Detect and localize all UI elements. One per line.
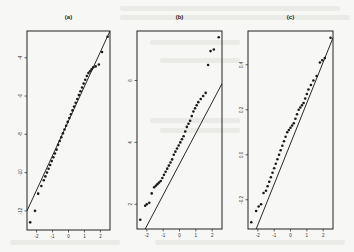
data-point	[49, 164, 52, 167]
data-point	[302, 102, 305, 105]
y-tick-label: 4	[128, 141, 133, 144]
y-tick-label: -8	[18, 132, 23, 136]
data-point	[312, 79, 315, 82]
y-tick-label: -6	[18, 94, 23, 98]
data-point	[86, 75, 89, 78]
data-point	[273, 167, 276, 170]
y-tick-label: -12	[18, 207, 23, 214]
x-tick-label: 2	[99, 234, 102, 239]
data-point	[319, 61, 322, 64]
data-point	[179, 141, 182, 144]
panel-title: (a)	[65, 14, 72, 20]
data-point	[262, 192, 265, 195]
data-point	[292, 122, 295, 125]
panel-title: (c)	[287, 14, 294, 20]
data-point	[250, 221, 253, 224]
data-point	[324, 57, 327, 60]
x-tick-label: -2	[145, 233, 149, 238]
data-point	[62, 132, 65, 135]
data-point	[192, 110, 195, 113]
data-point	[161, 177, 164, 180]
data-point	[268, 180, 271, 183]
plot-frame	[27, 31, 110, 230]
data-point	[44, 175, 47, 178]
plot-frame	[248, 31, 333, 229]
data-point	[255, 210, 258, 213]
data-point	[70, 113, 73, 116]
data-point	[299, 106, 302, 109]
x-tick-label: -2	[256, 233, 260, 238]
data-point	[174, 150, 177, 153]
data-point	[199, 98, 202, 101]
qq-panel-a: (a)-2-1012-12-10-8-6-4	[18, 14, 110, 239]
data-point	[40, 185, 43, 188]
x-tick-label: 0	[289, 233, 292, 238]
data-point	[187, 123, 190, 126]
x-tick-label: 0	[178, 233, 181, 238]
data-point	[278, 153, 281, 156]
x-tick-label: -1	[51, 234, 55, 239]
data-point	[34, 210, 37, 213]
data-point	[291, 124, 294, 127]
data-point	[54, 152, 57, 155]
x-tick-label: 1	[195, 233, 198, 238]
data-point	[146, 203, 149, 206]
data-point	[57, 144, 60, 147]
data-point	[283, 140, 286, 143]
data-point	[166, 167, 169, 170]
data-point	[163, 174, 166, 177]
y-tick-label: 0.0	[239, 151, 244, 158]
data-point	[286, 131, 289, 134]
data-point	[92, 66, 95, 69]
data-point	[202, 95, 205, 98]
data-point	[288, 129, 291, 132]
x-tick-label: 1	[306, 233, 309, 238]
data-point	[186, 126, 189, 129]
data-point	[55, 148, 58, 151]
data-point	[310, 84, 313, 87]
data-point	[321, 59, 324, 62]
data-point	[294, 117, 297, 120]
data-point	[171, 158, 174, 161]
data-point	[98, 63, 101, 66]
data-point	[190, 115, 193, 118]
data-point	[68, 117, 71, 120]
y-tick-label: -4	[18, 55, 23, 59]
qq-panel-b: (b)-2-1012246	[128, 14, 222, 238]
data-point	[284, 135, 287, 138]
data-point	[260, 203, 263, 206]
reference-line	[256, 38, 333, 229]
data-point	[281, 144, 284, 147]
data-point	[182, 135, 185, 138]
data-point	[169, 161, 172, 164]
data-point	[139, 218, 142, 221]
data-point	[172, 153, 175, 156]
data-point	[168, 164, 171, 167]
data-point	[270, 176, 273, 179]
x-tick-label: 1	[83, 234, 86, 239]
data-point	[150, 192, 153, 195]
data-point	[65, 124, 68, 127]
data-point	[29, 221, 32, 224]
y-tick-label: 6	[128, 79, 133, 82]
data-point	[181, 138, 184, 141]
data-point	[329, 36, 332, 39]
data-point	[74, 101, 77, 104]
panel-title: (b)	[176, 14, 184, 20]
data-point	[274, 162, 277, 165]
data-point	[63, 128, 66, 131]
data-point	[289, 126, 292, 129]
data-point	[94, 65, 97, 68]
data-point	[315, 75, 318, 78]
qq-plot-figure: (a)-2-1012-12-10-8-6-4 (b)-2-1012246 (c)…	[0, 0, 354, 252]
data-point	[204, 92, 207, 95]
plot-frame	[137, 31, 222, 229]
data-point	[164, 170, 167, 173]
x-tick-label: -1	[161, 233, 165, 238]
qq-panel-c: (c)-2-1012-0.20.00.20.4	[239, 14, 333, 238]
data-point	[47, 167, 50, 170]
data-point	[37, 192, 40, 195]
data-point	[306, 93, 309, 96]
data-point	[46, 171, 49, 174]
data-point	[195, 104, 198, 107]
